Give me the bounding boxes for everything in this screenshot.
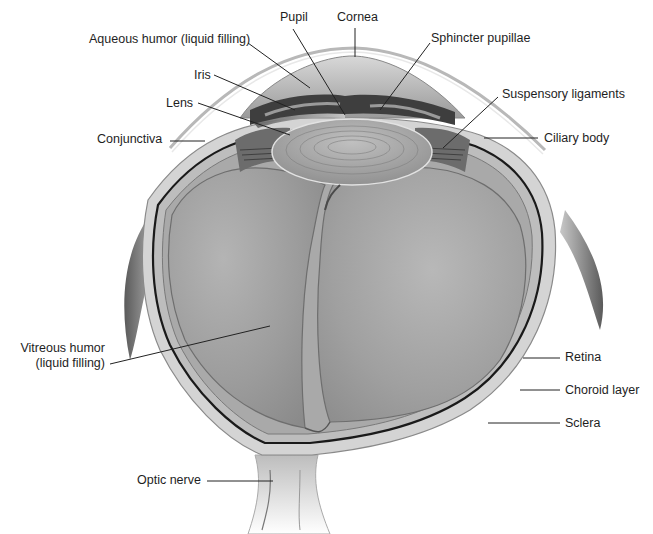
label-conjunctiva: Conjunctiva	[97, 132, 162, 147]
label-vitreous-humor-line1: Vitreous humor	[10, 341, 105, 356]
label-optic-nerve: Optic nerve	[137, 473, 201, 488]
label-suspensory-ligaments: Suspensory ligaments	[502, 87, 625, 102]
optic-nerve-shape	[248, 455, 330, 534]
label-aqueous-humor: Aqueous humor (liquid filling)	[89, 32, 250, 47]
label-sclera: Sclera	[565, 416, 600, 431]
label-sphincter-pupillae: Sphincter pupillae	[431, 31, 530, 46]
label-choroid-layer: Choroid layer	[565, 383, 639, 398]
label-ciliary-body: Ciliary body	[544, 131, 609, 146]
label-vitreous-humor-line2: (liquid filling)	[10, 356, 105, 371]
label-vitreous-humor: Vitreous humor (liquid filling)	[10, 341, 105, 371]
eye-illustration	[0, 0, 653, 534]
label-retina: Retina	[565, 350, 601, 365]
label-lens: Lens	[166, 96, 193, 111]
lens-shape	[272, 119, 432, 185]
label-iris: Iris	[194, 68, 211, 83]
right-muscle	[560, 210, 603, 330]
label-pupil: Pupil	[280, 10, 308, 25]
label-cornea: Cornea	[337, 10, 378, 25]
eye-diagram: Pupil Cornea Aqueous humor (liquid filli…	[0, 0, 653, 534]
